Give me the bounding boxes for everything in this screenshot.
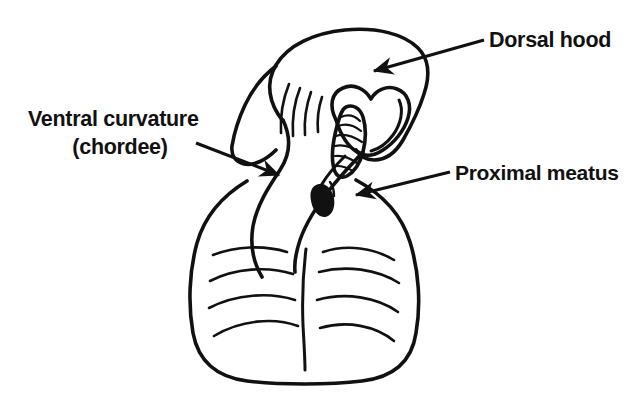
scrotal-rugae-right bbox=[317, 248, 399, 341]
dorsal-hood-outer bbox=[232, 29, 428, 164]
label-ventral-curvature-line2: (chordee) bbox=[72, 135, 167, 159]
label-proximal-meatus: Proximal meatus bbox=[455, 161, 619, 184]
hood-inner-rim bbox=[371, 100, 401, 151]
ventral-curve-left bbox=[252, 120, 289, 277]
anatomy-illustration: Dorsal hood Ventral curvature (chordee) … bbox=[0, 0, 639, 397]
label-dorsal-hood: Dorsal hood bbox=[489, 28, 611, 52]
figure-root: Dorsal hood Ventral curvature (chordee) … bbox=[0, 0, 639, 397]
median-raphe bbox=[303, 249, 306, 370]
label-ventral-curvature-line1: Ventral curvature bbox=[28, 107, 199, 131]
proximal-meatus-leader bbox=[356, 172, 450, 195]
